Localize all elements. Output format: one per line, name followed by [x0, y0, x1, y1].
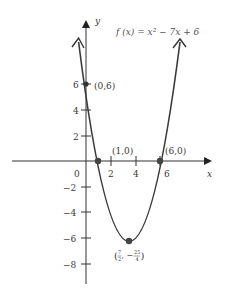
point-6-0	[157, 158, 163, 164]
x-tick-label-6: 6	[164, 169, 170, 179]
point-label-0-6: (0,6)	[94, 81, 115, 91]
y-tick-label-m6: −6	[63, 234, 77, 244]
y-axis-label: y	[94, 16, 101, 26]
y-tick-label-m2: −2	[63, 183, 76, 193]
point-label-6-0: (6,0)	[165, 146, 186, 156]
y-tick-label-m4: −4	[63, 208, 77, 218]
parabola-graph: y x 0 f (x) = x² − 7x + 6 2 4 6 6 4 2 −2…	[0, 0, 225, 294]
point-0-6	[83, 81, 88, 86]
y-tick-label-m8: −8	[63, 260, 77, 270]
y-tick-label-4: 4	[73, 106, 79, 116]
svg-text:25: 25	[134, 249, 140, 255]
origin-label: 0	[74, 169, 80, 179]
x-tick-label-4: 4	[133, 169, 139, 179]
function-title: f (x) = x² − 7x + 6	[115, 27, 200, 37]
svg-text:): )	[141, 250, 145, 261]
x-tick-label-2: 2	[108, 169, 114, 179]
y-tick-label-6: 6	[73, 80, 79, 90]
parabola-curve	[79, 42, 180, 242]
point-label-1-0: (1,0)	[112, 146, 133, 156]
y-tick-label-2: 2	[73, 132, 79, 142]
vertex-point	[126, 238, 132, 244]
svg-text:, −: , −	[122, 251, 134, 260]
vertex-label: ( 7 2 , − 25 4 )	[114, 249, 145, 262]
x-axis-label: x	[207, 169, 212, 179]
svg-text:4: 4	[136, 256, 139, 262]
point-1-0	[95, 158, 101, 164]
